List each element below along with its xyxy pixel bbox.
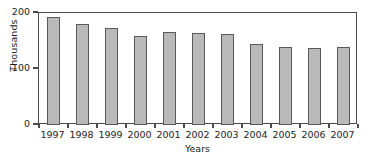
bar <box>308 48 321 125</box>
x-axis-tick <box>328 124 330 128</box>
bar <box>163 32 176 125</box>
x-axis-tick <box>183 124 185 128</box>
y-tick-label: 0 <box>0 118 30 129</box>
bar <box>250 44 263 125</box>
bar <box>337 47 350 125</box>
bar <box>134 36 147 125</box>
x-axis-label: 2007 <box>326 129 360 140</box>
x-axis-tick <box>38 124 40 128</box>
x-axis-tick <box>241 124 243 128</box>
x-axis-tick <box>67 124 69 128</box>
x-axis-tick <box>154 124 156 128</box>
bar <box>192 33 205 125</box>
plot-area <box>38 12 357 124</box>
x-axis-tick <box>299 124 301 128</box>
x-axis-tick <box>96 124 98 128</box>
y-tick-label: 100 <box>0 62 30 73</box>
y-tick-label: 200 <box>0 6 30 17</box>
bar <box>47 17 60 125</box>
bar-chart: Thousands 0100200 1997199819992000200120… <box>0 0 369 159</box>
bar <box>76 24 89 125</box>
x-axis-tick <box>212 124 214 128</box>
bar <box>279 47 292 125</box>
x-axis-tick <box>125 124 127 128</box>
bar <box>105 28 118 125</box>
bar <box>221 34 234 125</box>
x-axis-title: Years <box>38 143 357 154</box>
bars-group <box>39 13 358 125</box>
y-axis-title: Thousands <box>8 6 19 86</box>
x-axis-tick <box>270 124 272 128</box>
x-axis-tick <box>357 124 359 128</box>
